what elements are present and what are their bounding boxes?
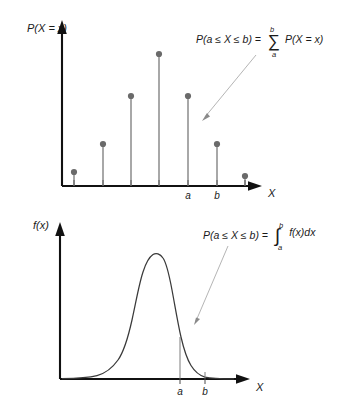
formula-lower-limit-discrete: a [272,50,276,59]
stem-point [214,141,220,186]
probability-figure: P(X = x) [0,0,347,408]
stem-point [185,93,191,186]
formula-lhs-continuous: P(a ≤ X ≤ b) = [203,229,268,241]
tick-label-b-continuous: b [202,386,208,397]
formula-lower-limit-continuous: a [278,243,282,252]
formula-continuous: P(a ≤ X ≤ b) = ∫ b a f(x)dx [203,218,316,252]
formula-lhs-discrete: P(a ≤ X ≤ b) = [196,33,261,45]
formula-upper-limit-continuous: b [279,221,283,230]
tick-label-a-discrete: a [185,190,191,201]
x-axis-label-continuous: X [255,381,264,393]
stem-point [156,51,162,186]
annotation-leader-discrete [202,55,256,121]
stem-point [100,141,106,186]
formula-upper-limit-discrete: b [270,25,274,34]
formula-rhs-continuous: f(x)dx [289,226,316,238]
continuous-distribution-chart: f(x) a b X P(a ≤ X ≤ b) = [0,204,347,408]
y-axis-continuous [55,222,65,379]
formula-rhs-discrete: P(X = x) [285,33,323,45]
x-axis-discrete [62,181,262,191]
summation-operator-icon: ∑ [268,32,280,51]
density-curve [62,254,234,379]
y-axis-label-continuous: f(x) [33,219,49,231]
stem-point [128,93,134,186]
tick-label-b-discrete: b [214,190,220,201]
stem-point [71,169,77,186]
x-axis-label-discrete: X [267,187,276,199]
formula-discrete: P(a ≤ X ≤ b) = ∑ b a P(X = x) [196,22,323,59]
discrete-distribution-chart: P(X = x) [0,0,347,204]
annotation-leader-continuous [194,246,228,325]
y-axis-discrete [57,20,67,186]
stem-series-discrete [71,51,248,186]
tick-label-a-continuous: a [177,386,183,397]
stem-point [242,173,248,186]
